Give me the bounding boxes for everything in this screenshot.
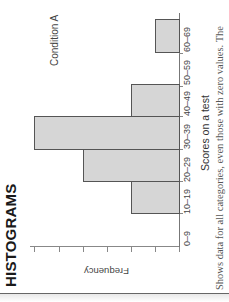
frequency-tick-6	[34, 247, 35, 252]
frequency-tick-2	[131, 247, 132, 252]
bar-10-19	[131, 181, 180, 214]
category-label-10-19: 10–19	[182, 189, 192, 214]
bar-20-29	[83, 149, 180, 182]
caption-text: Shows data for all categories, even thos…	[214, 26, 225, 290]
category-label-60-69: 60–69	[182, 27, 192, 52]
chart-condition-label: Condition A	[49, 15, 60, 66]
y-axis-label: Frequency	[84, 266, 129, 277]
category-label-40-49: 40–49	[182, 91, 192, 116]
page-title: HISTOGRAMS	[2, 184, 19, 287]
frequency-axis	[30, 246, 180, 247]
frequency-tick-0	[179, 247, 180, 252]
category-label-50-59: 50–59	[182, 60, 192, 85]
frequency-tick-4	[83, 247, 84, 252]
bar-30-39	[34, 116, 180, 150]
page-edge-shadow	[0, 294, 229, 302]
frequency-tick-5	[59, 247, 60, 252]
category-label-20-29: 20–29	[182, 157, 192, 182]
bar-40-49	[131, 84, 180, 117]
x-axis-label: Scores on a test	[199, 95, 211, 171]
frequency-tick-1	[155, 247, 156, 252]
category-tick	[179, 53, 183, 54]
frequency-tick-3	[107, 247, 108, 252]
category-label-0-9: 0–9	[182, 231, 192, 246]
bar-60-69	[155, 19, 180, 53]
category-label-30-39: 30–39	[182, 124, 192, 149]
